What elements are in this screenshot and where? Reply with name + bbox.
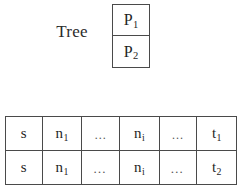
symbol-subscript: i <box>142 166 145 177</box>
symbol-t1: t1 <box>212 126 222 141</box>
table-row: s n1 … ni … t2 <box>6 151 236 184</box>
symbol-base: n <box>56 125 64 141</box>
table-cell: ni <box>120 151 160 184</box>
ellipsis-glyph: … <box>94 129 107 141</box>
table-cell: s <box>6 151 43 184</box>
symbol-base: P <box>124 11 133 28</box>
table-cell: … <box>82 117 120 150</box>
tree-label: Tree <box>38 22 106 42</box>
tree-path-box: P1 P2 <box>112 4 150 68</box>
table-cell: t2 <box>197 151 236 184</box>
table-cell: n1 <box>43 117 83 150</box>
table-cell: n1 <box>43 151 83 184</box>
tree-path-box-cell-p1: P1 <box>113 5 149 36</box>
symbol-p1: P1 <box>124 12 139 28</box>
symbol-base: n <box>134 159 142 175</box>
symbol-ni: ni <box>134 126 145 141</box>
table-row: s n1 … ni … t1 <box>6 117 236 151</box>
table-cell: s <box>6 117 43 150</box>
sequence-table: s n1 … ni … t1 <box>5 116 237 185</box>
symbol-p2: P2 <box>124 44 139 60</box>
table-cell: t1 <box>197 117 236 150</box>
table-cell: ni <box>120 117 160 150</box>
figure-root: Tree P1 P2 s n1 <box>0 0 247 190</box>
symbol-s: s <box>21 160 27 175</box>
table-cell: … <box>160 117 198 150</box>
tree-path-box-cell-p2: P2 <box>113 36 149 67</box>
symbol-subscript: i <box>142 132 145 143</box>
symbol-base: s <box>21 159 27 175</box>
table-cell: … <box>82 151 120 184</box>
symbol-subscript: 2 <box>133 50 138 61</box>
symbol-s: s <box>21 126 27 141</box>
ellipsis-glyph: … <box>170 162 186 175</box>
symbol-subscript: 1 <box>216 132 221 143</box>
symbol-subscript: 2 <box>216 166 221 177</box>
symbol-subscript: 1 <box>63 132 68 143</box>
symbol-base: n <box>134 125 142 141</box>
symbol-subscript: 1 <box>133 19 138 30</box>
table-cell: … <box>160 151 198 184</box>
symbol-n1: n1 <box>56 160 69 175</box>
symbol-n1: n1 <box>56 126 69 141</box>
ellipsis-glyph: … <box>93 162 109 175</box>
symbol-t2: t2 <box>212 160 222 175</box>
symbol-base: P <box>124 43 133 60</box>
symbol-base: s <box>21 125 27 141</box>
ellipsis-glyph: … <box>172 129 185 141</box>
symbol-subscript: 1 <box>63 166 68 177</box>
symbol-ni: ni <box>134 160 145 175</box>
symbol-base: n <box>56 159 64 175</box>
